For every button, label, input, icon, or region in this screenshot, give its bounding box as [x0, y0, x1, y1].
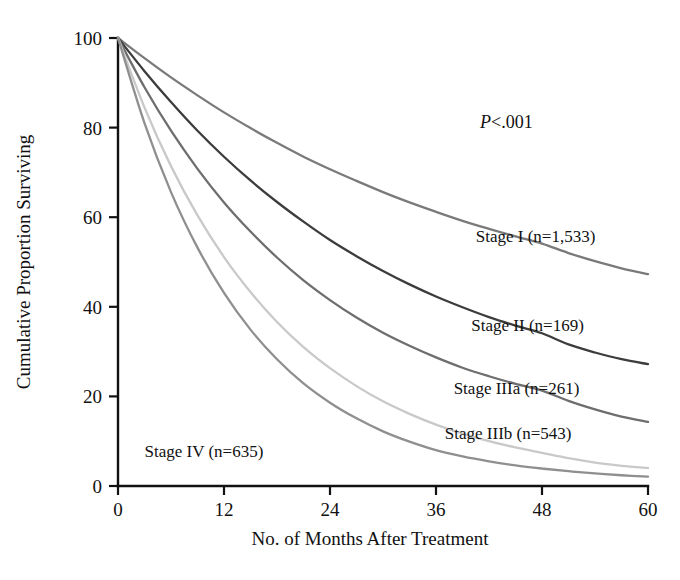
p-value-number: <.001 [491, 112, 533, 132]
p-value-symbol: P [479, 112, 491, 132]
x-tick-label: 48 [533, 499, 552, 520]
x-tick-label: 0 [113, 499, 123, 520]
series-label-stage-iiib: Stage IIIb (n=543) [445, 424, 572, 443]
series-label-stage-ii: Stage II (n=169) [471, 316, 584, 335]
x-tick-label: 24 [321, 499, 341, 520]
series-label-stage-i: Stage I (n=1,533) [476, 227, 596, 246]
x-tick-label: 36 [427, 499, 446, 520]
curve-series-group [118, 38, 648, 477]
y-tick-label: 20 [83, 386, 102, 407]
x-axis-ticks: 01224364860 [113, 486, 657, 520]
p-value-annotation: P<.001 [479, 112, 533, 132]
y-tick-label: 60 [83, 207, 102, 228]
y-tick-label: 40 [83, 297, 102, 318]
series-label-stage-iiia: Stage IIIa (n=261) [454, 379, 580, 398]
curve-stage-ii [118, 38, 648, 364]
curve-stage-iv [118, 38, 648, 477]
series-label-stage-iv: Stage IV (n=635) [145, 442, 264, 461]
axes [118, 38, 648, 486]
y-axis-ticks: 020406080100 [74, 28, 119, 497]
y-axis-title: Cumulative Proportion Surviving [13, 134, 34, 389]
survival-curve-chart: 020406080100 01224364860 Stage I (n=1,53… [0, 0, 680, 580]
y-tick-label: 80 [83, 118, 102, 139]
y-tick-label: 100 [74, 28, 103, 49]
x-tick-label: 60 [639, 499, 658, 520]
y-tick-label: 0 [93, 476, 103, 497]
x-tick-label: 12 [215, 499, 234, 520]
x-axis-title: No. of Months After Treatment [252, 528, 490, 549]
